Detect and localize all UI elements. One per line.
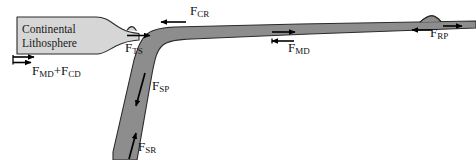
fmd-cd-sub2: CD bbox=[68, 69, 81, 79]
force-label-frp: FRP bbox=[430, 26, 448, 39]
continental-lithosphere-line1: Continental bbox=[22, 22, 77, 36]
frp-sub: RP bbox=[437, 31, 448, 41]
fcr-sub: CR bbox=[197, 9, 209, 19]
fmd-cd-sub1: MD bbox=[39, 69, 54, 79]
plate-tectonics-force-diagram: Continental Lithosphere FMD+FCD FTS FCR … bbox=[0, 0, 476, 160]
force-label-fts: FTS bbox=[125, 41, 143, 54]
force-label-fmd-cd: FMD+FCD bbox=[32, 64, 81, 77]
continental-lithosphere-line2: Lithosphere bbox=[22, 36, 77, 50]
force-label-fsr: FSR bbox=[138, 140, 156, 153]
continental-neck-bump bbox=[127, 27, 137, 31]
fmd-sub: MD bbox=[295, 46, 310, 56]
force-label-fmd: FMD bbox=[288, 41, 310, 54]
fsp-sub: SP bbox=[159, 84, 169, 94]
force-label-fsp: FSP bbox=[152, 79, 169, 92]
fsr-sub: SR bbox=[145, 145, 156, 155]
continental-lithosphere-label: Continental Lithosphere bbox=[22, 22, 77, 51]
fmd-cd-plus: + bbox=[54, 63, 61, 78]
fts-sub: TS bbox=[132, 46, 143, 56]
force-label-fcr: FCR bbox=[190, 4, 209, 17]
